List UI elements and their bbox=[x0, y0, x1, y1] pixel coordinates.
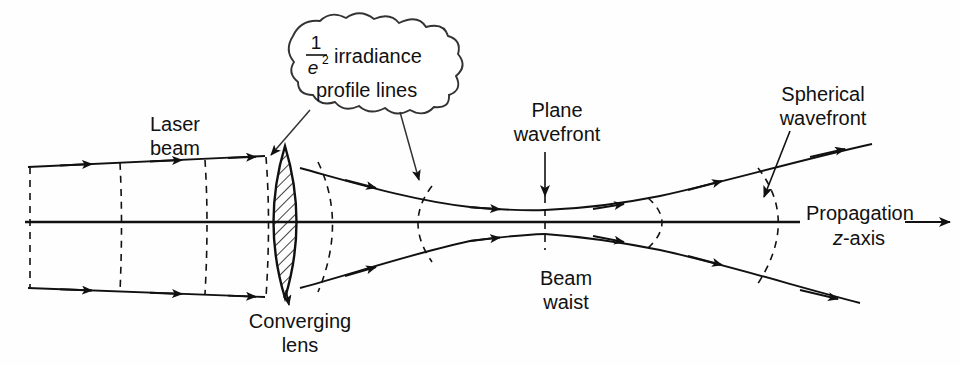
callout-text-line2: profile lines bbox=[316, 79, 417, 101]
beam-waist-label-line2: waist bbox=[542, 291, 589, 313]
diverging-curved-wavefronts bbox=[648, 168, 778, 288]
plane-wavefront-label-line2: wavefront bbox=[513, 123, 601, 145]
callout-fraction-numerator: 1 bbox=[311, 32, 322, 53]
input-plane-wavefronts bbox=[30, 160, 207, 294]
input-beam-profiles bbox=[28, 156, 265, 297]
laser-beam-label-line2: beam bbox=[150, 137, 200, 159]
post-lens-curved-wavefront bbox=[318, 162, 333, 292]
beam-waist-label-line1: Beam bbox=[540, 267, 592, 289]
callout-fraction-exponent: 2 bbox=[322, 53, 329, 67]
propagation-axis-suffix: -axis bbox=[843, 227, 885, 249]
callout-fraction-denominator: e bbox=[308, 57, 319, 78]
diverging-flow-arrows bbox=[593, 149, 845, 299]
pre-lens-wavefront bbox=[266, 157, 269, 297]
callout-text-line1: irradiance bbox=[334, 45, 422, 67]
converging-lens bbox=[274, 146, 297, 298]
diagram-canvas: 1 e 2 irradiance profile lines Laser bea… bbox=[0, 0, 961, 366]
converging-flow-arrows bbox=[345, 180, 500, 276]
spherical-wavefront-label-line2: wavefront bbox=[779, 107, 867, 129]
input-beam-flow-arrows bbox=[60, 157, 256, 297]
converging-lens-label-line2: lens bbox=[282, 334, 319, 356]
laser-beam-diagram: 1 e 2 irradiance profile lines Laser bea… bbox=[0, 0, 961, 366]
propagation-label-line2: z-axis bbox=[832, 227, 885, 249]
laser-beam-label-line1: Laser bbox=[150, 113, 200, 135]
converging-beam-profiles bbox=[300, 168, 545, 288]
propagation-label-line1: Propagation bbox=[806, 202, 914, 224]
plane-wavefront-label-line1: Plane bbox=[531, 99, 582, 121]
propagation-axis-letter: z bbox=[832, 227, 843, 249]
callout-leader-lines bbox=[271, 110, 419, 180]
spherical-wavefront-label-line1: Spherical bbox=[781, 83, 864, 105]
converging-lens-label-line1: Converging bbox=[249, 310, 351, 332]
